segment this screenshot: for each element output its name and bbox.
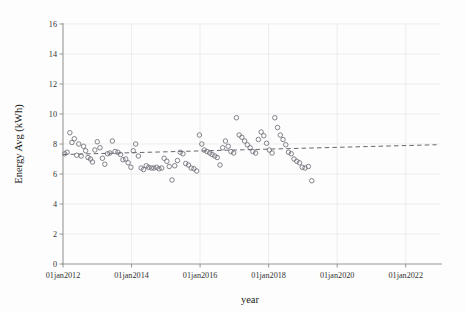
data-point: [234, 116, 239, 121]
y-tick-label: 8: [53, 140, 57, 149]
data-point: [275, 125, 280, 130]
x-tick-label: 01jan2020: [320, 271, 355, 280]
data-point: [218, 163, 223, 168]
data-point: [270, 151, 275, 156]
data-point: [83, 149, 88, 154]
y-tick-label: 2: [53, 230, 57, 239]
y-tick-label: 10: [49, 110, 57, 119]
data-point: [256, 137, 261, 142]
y-tick-label: 14: [49, 50, 57, 59]
data-point: [93, 148, 98, 153]
data-point: [129, 165, 134, 170]
y-axis-title: Energy Avg (kWh): [13, 104, 25, 184]
y-tick-label: 4: [53, 200, 57, 209]
data-point: [264, 141, 269, 146]
gridlines: [63, 24, 440, 264]
data-point: [170, 178, 175, 183]
data-point: [220, 146, 225, 151]
data-point: [226, 144, 231, 149]
data-point: [262, 134, 267, 139]
scatter-chart: 024681012141601jan201201jan201401jan2016…: [0, 0, 465, 313]
x-axis-title: year: [241, 294, 260, 305]
data-point: [100, 156, 105, 161]
data-point: [281, 137, 286, 142]
data-point: [81, 144, 86, 149]
data-point: [175, 158, 180, 163]
data-point: [74, 153, 79, 158]
y-tick-label: 6: [53, 170, 57, 179]
data-point: [68, 131, 73, 136]
x-tick-label: 01jan2016: [183, 271, 218, 280]
data-point: [110, 139, 115, 144]
data-point: [278, 133, 283, 138]
data-point: [136, 154, 141, 159]
data-point: [159, 166, 164, 171]
data-point: [197, 133, 202, 138]
x-tick-label: 01jan2014: [114, 271, 149, 280]
data-point: [310, 179, 315, 184]
data-point: [103, 162, 108, 167]
data-point: [95, 140, 100, 145]
data-point: [167, 164, 172, 169]
data-point: [223, 139, 228, 144]
y-tick-label: 12: [49, 80, 57, 89]
data-point: [126, 161, 131, 166]
data-point: [273, 116, 278, 121]
y-tick-label: 16: [49, 20, 57, 29]
data-points: [62, 116, 314, 184]
data-point: [98, 146, 103, 151]
data-point: [172, 164, 177, 169]
chart-canvas: 024681012141601jan201201jan201401jan2016…: [0, 0, 465, 313]
y-tick-label: 0: [53, 260, 57, 269]
x-tick-label: 01jan2018: [251, 271, 286, 280]
data-point: [284, 143, 289, 148]
data-point: [72, 137, 77, 142]
data-point: [165, 159, 170, 164]
x-tick-label: 01jan2022: [388, 271, 423, 280]
x-tick-label: 01jan2012: [46, 271, 81, 280]
